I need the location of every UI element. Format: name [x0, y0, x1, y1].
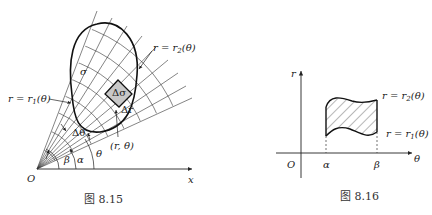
- region-label-sigma: σ: [80, 66, 88, 77]
- inner-curve-pointer: [49, 99, 71, 103]
- alpha-label: α: [323, 159, 330, 170]
- caption-8-16: 图 8.16: [340, 190, 379, 203]
- lower-curve-label: r = r1(θ): [386, 128, 429, 141]
- beta-label: β: [373, 159, 380, 170]
- alpha-label: α: [77, 154, 84, 165]
- delta-theta-label: Δθ: [72, 127, 85, 138]
- region-boundary: [70, 23, 137, 132]
- figures-canvas: σ Δσ Δr Δθ (r, θ) θ β α O x r = r2(θ) r …: [0, 0, 432, 215]
- figure-8-16: r θ O α β r = r2(θ) r = r1(θ) 图 8.16: [276, 68, 429, 203]
- caption-8-15: 图 8.15: [84, 193, 123, 206]
- figure-8-15: σ Δσ Δr Δθ (r, θ) θ β α O x r = r2(θ) r …: [0, 11, 196, 215]
- point-label: (r, θ): [110, 140, 134, 151]
- origin-label: O: [287, 159, 295, 170]
- element-label-delta-sigma: Δσ: [112, 87, 126, 98]
- x-axis-label: x: [188, 174, 194, 185]
- delta-r-label: Δr: [121, 104, 133, 115]
- origin-label: O: [27, 173, 35, 184]
- outer-curve-label: r = r2(θ): [153, 42, 196, 55]
- outer-curve-pointer: [139, 51, 152, 69]
- inner-curve-label: r = r1(θ): [8, 93, 51, 106]
- r-axis-label: r: [291, 68, 297, 79]
- beta-label: β: [63, 154, 70, 165]
- theta-label: θ: [96, 148, 102, 159]
- upper-curve-label: r = r2(θ): [382, 90, 425, 103]
- theta-axis-label: θ: [414, 153, 420, 164]
